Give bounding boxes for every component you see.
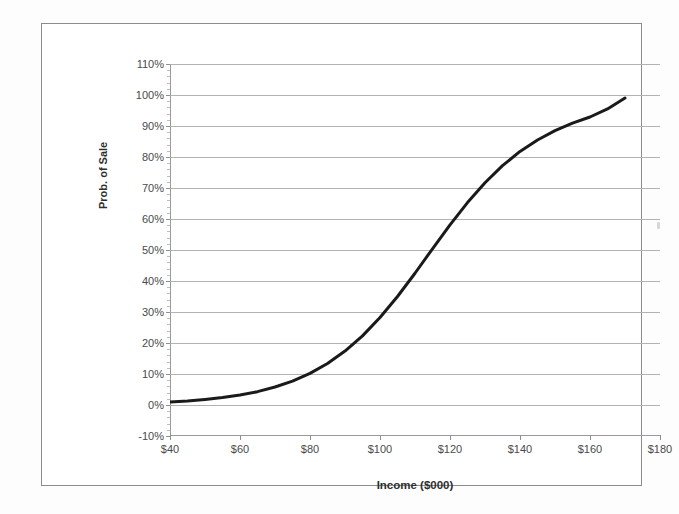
y-axis-tick-label: 70% (104, 183, 164, 194)
y-axis-tick-label: 20% (104, 338, 164, 349)
y-axis-tick-label: 50% (104, 245, 164, 256)
x-axis-tick-label: $100 (350, 444, 410, 455)
x-axis-tick-label: $120 (420, 444, 480, 455)
y-axis-tick-label: 80% (104, 152, 164, 163)
x-axis-tick-label: $60 (210, 444, 270, 455)
y-axis-tick-label: 60% (104, 214, 164, 225)
chart-page: Prob. of Sale -10%0%10%20%30%40%50%60%70… (0, 0, 679, 514)
y-axis-tick-label: 30% (104, 307, 164, 318)
y-axis-tick-labels: -10%0%10%20%30%40%50%60%70%80%90%100%110… (100, 64, 164, 436)
y-axis-tick-label: 90% (104, 121, 164, 132)
y-axis-tick-label: -10% (104, 431, 164, 442)
x-axis-title: Income ($000) (170, 479, 660, 491)
plot-area (170, 64, 660, 436)
x-axis-tick-label: $80 (280, 444, 340, 455)
x-axis-tick-labels: $40$60$80$100$120$140$160$180 (170, 444, 679, 460)
scan-artifact (657, 222, 660, 229)
y-axis-tick-label: 40% (104, 276, 164, 287)
x-axis-tick-label: $180 (630, 444, 679, 455)
y-axis-tick-label: 100% (104, 90, 164, 101)
x-axis-tick (660, 435, 661, 440)
y-axis-tick-label: 0% (104, 400, 164, 411)
y-axis-tick-label: 110% (104, 59, 164, 70)
chart-frame: Prob. of Sale -10%0%10%20%30%40%50%60%70… (41, 23, 642, 486)
x-axis-tick-label: $140 (490, 444, 550, 455)
y-axis-tick-label: 10% (104, 369, 164, 380)
x-axis-tick-label: $40 (140, 444, 200, 455)
sigmoid-curve (170, 64, 660, 436)
x-axis-tick-label: $160 (560, 444, 620, 455)
